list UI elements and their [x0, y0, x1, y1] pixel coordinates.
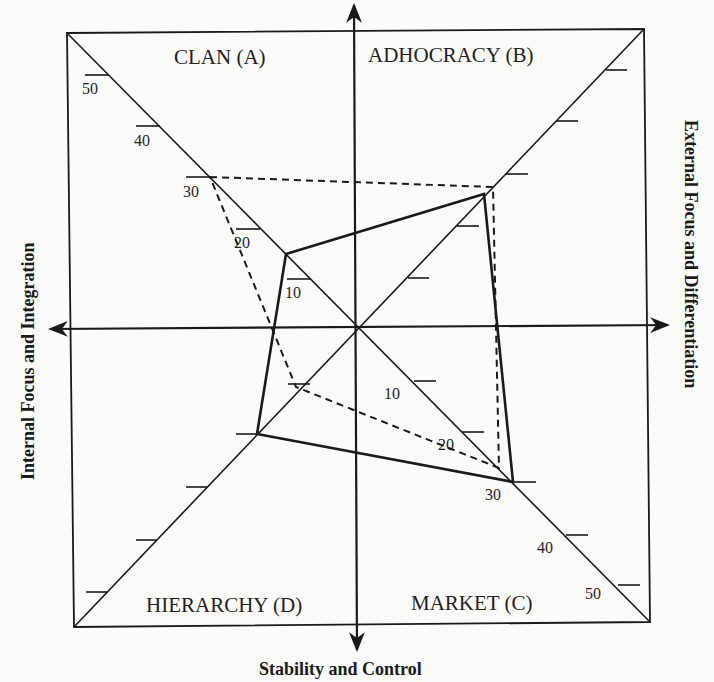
axis-title-external: External Focus and Differentiation: [681, 120, 701, 388]
market-ticks: [414, 381, 640, 585]
quadrant-label-hierarchy: HIERARCHY (D): [146, 593, 302, 617]
clan-tick-30: 30: [183, 183, 199, 200]
clan-tick-10: 10: [285, 284, 301, 301]
profile-solid: [257, 194, 513, 482]
quadrant-label-clan: CLAN (A): [174, 45, 266, 69]
axis-title-internal: Internal Focus and Integration: [18, 242, 38, 480]
market-tick-40: 40: [537, 539, 553, 556]
axis-title-stability: Stability and Control: [259, 659, 422, 679]
culture-profile-diagram: 50 40 30 20 10 10 20 30 40 50 CLAN (A) A…: [0, 0, 714, 682]
quadrant-label-market: MARKET (C): [411, 591, 533, 615]
adhocracy-ticks: [408, 70, 627, 278]
market-tick-50: 50: [585, 585, 601, 602]
quadrant-label-adhocracy: ADHOCRACY (B): [368, 43, 533, 67]
market-tick-30: 30: [485, 486, 501, 503]
clan-tick-50: 50: [82, 80, 98, 97]
clan-ticks: [85, 75, 311, 279]
market-tick-10: 10: [384, 385, 400, 402]
clan-tick-40: 40: [134, 132, 150, 149]
